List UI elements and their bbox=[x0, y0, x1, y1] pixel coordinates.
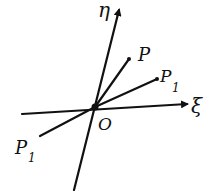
point-P-label: P bbox=[137, 44, 151, 65]
point-P1-reflected-label: P 1 bbox=[14, 137, 36, 165]
coordinate-diagram: η ξ O P P 1 P 1 bbox=[0, 0, 221, 191]
origin-point bbox=[92, 104, 99, 111]
point-P1-label-subscript: 1 bbox=[172, 81, 180, 95]
xi-axis bbox=[22, 104, 187, 114]
xi-label: ξ bbox=[191, 94, 203, 118]
point-P1-label: P 1 bbox=[159, 66, 180, 95]
point-P1-reflected-label-letter: P bbox=[14, 137, 28, 158]
eta-label: η bbox=[98, 0, 110, 22]
point-P1-reflected-label-subscript: 1 bbox=[28, 151, 36, 165]
point-P bbox=[127, 57, 131, 61]
origin-label: O bbox=[98, 114, 112, 134]
point-P1 bbox=[155, 77, 159, 81]
point-P1-label-letter: P bbox=[159, 66, 172, 86]
